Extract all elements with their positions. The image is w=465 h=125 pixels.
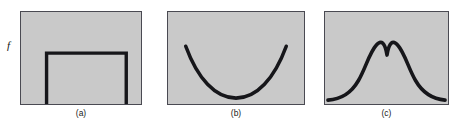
panel-a-plot	[21, 12, 141, 104]
panel-a-caption: (a)	[20, 109, 142, 118]
bimodal-curve	[328, 42, 445, 100]
step-function-curve	[47, 53, 127, 104]
panel-c-caption: (c)	[324, 109, 449, 118]
axis-label-f: f	[7, 40, 10, 51]
panel-a	[20, 11, 142, 105]
panel-c	[324, 11, 449, 105]
panel-b-caption: (b)	[167, 109, 305, 118]
panel-b	[167, 11, 305, 105]
panel-c-plot	[325, 12, 448, 104]
figure-root: f (a) (b) (c)	[0, 0, 465, 125]
parabola-curve	[186, 46, 287, 98]
panel-b-plot	[168, 12, 304, 104]
